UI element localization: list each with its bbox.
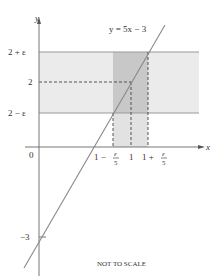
x-tick-left-num: ε xyxy=(114,150,117,158)
diagram-canvas: y x y = 5x − 3 2 + ε 2 2 − ε 0 −3 1 − ε … xyxy=(0,0,216,279)
y-tick-2-minus-eps: 2 − ε xyxy=(8,108,26,118)
x-tick-right-den: 5 xyxy=(162,159,166,167)
x-tick-right-main: 1 + xyxy=(142,152,154,162)
not-to-scale-note: NOT TO SCALE xyxy=(97,260,146,268)
y-tick-minus-3: −3 xyxy=(20,232,30,242)
x-tick-right-num: ε xyxy=(162,150,165,158)
diagram: y x y = 5x − 3 2 + ε 2 2 − ε 0 −3 1 − ε … xyxy=(0,0,216,279)
overlap-region xyxy=(113,52,148,113)
x-tick-left-main: 1 − xyxy=(94,152,106,162)
x-axis-label: x xyxy=(205,142,210,152)
y-tick-2-plus-eps: 2 + ε xyxy=(8,47,26,57)
x-tick-1: 1 xyxy=(129,152,134,162)
y-axis-label: y xyxy=(34,13,39,23)
y-tick-2: 2 xyxy=(28,77,33,87)
y-tick-0: 0 xyxy=(29,150,34,160)
x-axis-arrow-icon xyxy=(198,145,205,149)
function-label: y = 5x − 3 xyxy=(109,24,147,34)
x-tick-left-den: 5 xyxy=(114,159,118,167)
